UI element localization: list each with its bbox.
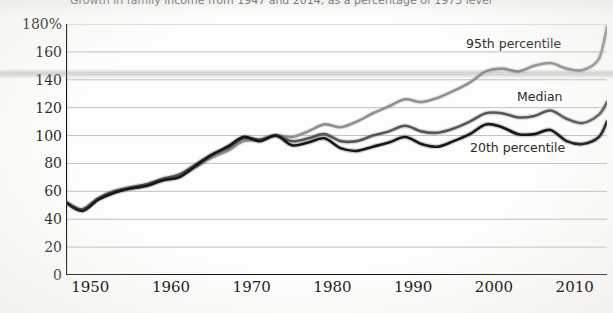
y-axis-label: 160 xyxy=(35,44,62,60)
x-axis-label: 2000 xyxy=(475,278,513,296)
y-axis-label: 100 xyxy=(35,128,62,144)
y-axis-label: 40 xyxy=(44,211,62,227)
income-growth-line-chart: Growth in family income from 1947 and 20… xyxy=(0,0,613,313)
y-axis-label: 80 xyxy=(44,155,62,171)
y-axis-label: 140 xyxy=(35,72,62,88)
y-axis-label: 0 xyxy=(53,267,62,283)
series-line-20th-percentile xyxy=(66,122,607,211)
x-axis-label: 1990 xyxy=(394,278,432,296)
chart-title: Growth in family income from 1947 and 20… xyxy=(70,0,610,7)
y-axis-tick-labels: 180%160140120100806040200 xyxy=(0,24,62,275)
series-label-median: Median xyxy=(517,89,562,104)
y-axis-label: 60 xyxy=(44,183,62,199)
series-line-median xyxy=(66,102,607,209)
y-axis-label: 180% xyxy=(22,16,62,32)
x-axis-label: 1960 xyxy=(152,278,190,296)
x-axis-label: 1950 xyxy=(71,278,109,296)
y-axis-label: 20 xyxy=(44,239,62,255)
x-axis-label: 1970 xyxy=(233,278,271,296)
series-label-95th-percentile: 95th percentile xyxy=(466,36,561,51)
series-label-20th-percentile: 20th percentile xyxy=(470,140,565,155)
x-axis-label: 1980 xyxy=(313,278,351,296)
x-axis-label: 2010 xyxy=(556,278,594,296)
y-axis-label: 120 xyxy=(35,100,62,116)
